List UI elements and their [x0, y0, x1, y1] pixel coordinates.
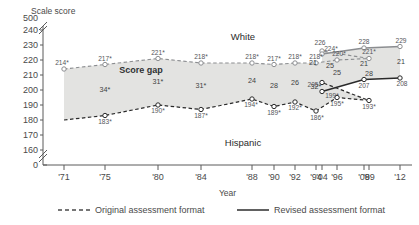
x-tick-label: '08: [358, 172, 370, 182]
score-gap-value-label-revised: 25: [326, 61, 334, 70]
hispanic-original-value-label: 189*: [267, 109, 281, 116]
x-axis-group: '71'75'80'84'88'90'92'94'96'99'04'08'12Y…: [43, 165, 412, 198]
hispanic-original-value-label: 186*: [310, 114, 324, 121]
score-gap-value-label: 31*: [153, 77, 164, 86]
white-original-marker: [62, 67, 66, 71]
white-original-marker: [250, 61, 254, 65]
hispanic-original-value-label: 193*: [362, 103, 376, 110]
white-revised-value-label: 228: [358, 38, 369, 45]
white-original-value-label: 221*: [362, 48, 376, 55]
score-gap-value-label: 34*: [100, 85, 111, 94]
score-gap-band-title: Score gap: [119, 65, 163, 75]
x-tick-label: '88: [246, 172, 258, 182]
score-gap-value-label: 26: [291, 78, 299, 87]
score-gap-value-label-revised: 21: [360, 59, 368, 68]
hispanic-original-marker: [314, 109, 318, 113]
hispanic-original-value-label: 183*: [98, 118, 112, 125]
score-gap-value-label: 31*: [196, 81, 207, 90]
white-original-value-label: 217*: [98, 55, 112, 62]
legend-label-original: Original assessment format: [95, 205, 205, 215]
hispanic-original-value-label: 187*: [194, 112, 208, 119]
white-original-marker: [156, 56, 160, 60]
y-tick-label: 200: [23, 85, 38, 95]
score-gap-value-label: 32*: [311, 82, 322, 91]
y-tick-label: 220: [23, 55, 38, 65]
hispanic-original-value-label: 192*: [288, 104, 302, 111]
y-tick-label: 180: [23, 115, 38, 125]
score-gap-value-label: 21: [309, 58, 317, 67]
white-original-value-label: 218*: [194, 53, 208, 60]
y-tick-label: 190: [23, 100, 38, 110]
white-revised-marker: [398, 44, 402, 48]
hispanic-original-value-label: 190*: [151, 107, 165, 114]
white-revised-value-label: 224*: [324, 45, 338, 52]
x-tick-label: '80: [152, 172, 164, 182]
x-tick-label: '04: [316, 172, 328, 182]
x-tick-label: '75: [99, 172, 111, 182]
legend-label-revised: Revised assessment format: [274, 205, 386, 215]
x-tick-label: '96: [331, 172, 343, 182]
legend-group: Original assessment formatRevised assess…: [58, 205, 386, 215]
hispanic-revised-value-label: 207: [358, 82, 369, 89]
white-original-marker: [199, 61, 203, 65]
x-tick-label: '92: [289, 172, 301, 182]
y-tick-label: 500: [23, 13, 38, 23]
white-original-value-label: 218*: [245, 53, 259, 60]
x-tick-label: '84: [195, 172, 207, 182]
score-gap-value-label: 28: [365, 69, 373, 78]
white-original-value-label: 214*: [55, 59, 69, 66]
x-tick-label: '90: [268, 172, 280, 182]
chart-container: Scale score50024023022021020019018017016…: [0, 0, 419, 225]
hispanic-revised-value-label: 208: [396, 80, 407, 87]
y-tick-label: 240: [23, 25, 38, 35]
white-original-value-label: 221*: [151, 49, 165, 56]
white-original-marker: [272, 62, 276, 66]
x-axis-title: Year: [219, 188, 236, 198]
white-original-marker: [293, 61, 297, 65]
y-tick-label: 160: [23, 145, 38, 155]
white-revised-value-label: 229: [395, 37, 406, 44]
y-tick-label: 230: [23, 40, 38, 50]
hispanic-original-value-label: 194*: [244, 101, 258, 108]
score-gap-value-label: 24: [248, 76, 256, 85]
score-gap-value-label-revised: 21: [397, 57, 405, 66]
y-tick-label: 0: [33, 160, 38, 170]
white-original-marker: [103, 62, 107, 66]
score-gap-value-label: 28: [270, 81, 278, 90]
white-original-value-label: 217*: [267, 55, 281, 62]
y-tick-label: 210: [23, 70, 38, 80]
y-axis-group: 5002402302202102001901801701600: [23, 13, 47, 170]
hispanic-original-value-label: 195*: [330, 100, 344, 107]
y-tick-label: 170: [23, 130, 38, 140]
white-original-marker: [335, 58, 339, 62]
hispanic-series-annotation: Hispanic: [225, 137, 262, 148]
white-series-annotation: White: [231, 31, 255, 42]
scale-score-line-chart: Scale score50024023022021020019018017016…: [0, 0, 419, 225]
x-tick-label: '71: [58, 172, 70, 182]
x-tick-label: '12: [394, 172, 406, 182]
white-original-value-label: 218*: [288, 53, 302, 60]
score-gap-value-label: 25: [333, 68, 341, 77]
hispanic-revised-value-label: 199*: [325, 92, 339, 99]
